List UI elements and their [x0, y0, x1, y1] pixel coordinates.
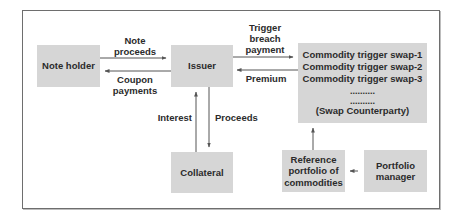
- premium-label: Premium: [244, 73, 288, 84]
- swap-ellipsis-1: ..........: [350, 88, 375, 95]
- collateral-label: Collateral: [180, 167, 223, 179]
- swap-line-3: Commodity trigger swap-3: [303, 73, 423, 85]
- note-holder-label: Note holder: [42, 60, 95, 72]
- note-holder-box: Note holder: [37, 45, 100, 87]
- note-proceeds-label: Note proceeds: [112, 35, 158, 57]
- reference-portfolio-line-3: commodities: [284, 177, 343, 189]
- trigger-breach-payment-label: Trigger breach payment: [240, 22, 290, 55]
- swap-line-1: Commodity trigger swap-1: [303, 49, 423, 61]
- swap-ellipsis-2: ..........: [350, 98, 375, 105]
- coupon-payments-label: Coupon payments: [110, 74, 160, 96]
- swap-counterparty-label: (Swap Counterparty): [316, 105, 409, 117]
- reference-portfolio-line-1: Reference: [291, 154, 337, 166]
- reference-portfolio-line-2: portfolio of: [288, 165, 338, 177]
- issuer-label: Issuer: [188, 60, 216, 72]
- proceeds-label: Proceeds: [215, 112, 265, 123]
- portfolio-manager-line-1: Portfolio: [376, 160, 415, 172]
- swap-counterparty-box: Commodity trigger swap-1 Commodity trigg…: [298, 43, 427, 123]
- reference-portfolio-box: Reference portfolio of commodities: [282, 150, 345, 192]
- collateral-box: Collateral: [171, 152, 233, 193]
- issuer-box: Issuer: [171, 45, 233, 87]
- portfolio-manager-box: Portfolio manager: [364, 150, 427, 192]
- swap-line-2: Commodity trigger swap-2: [303, 61, 423, 73]
- interest-label: Interest: [150, 112, 192, 123]
- portfolio-manager-line-2: manager: [376, 171, 416, 183]
